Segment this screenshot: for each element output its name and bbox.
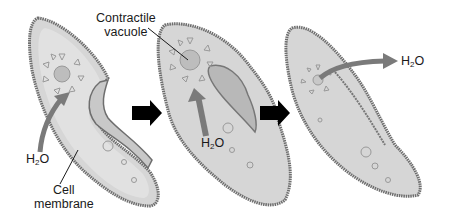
label-line-2: membrane	[34, 197, 94, 211]
label-line-2: vacuole	[96, 25, 156, 39]
cell-membrane-leader-line	[60, 150, 78, 184]
h-text: H	[201, 136, 210, 150]
cell-membrane-label: Cell membrane	[34, 183, 94, 211]
contractile-vacuole-label: Contractile vacuole	[96, 11, 156, 39]
h-text: H	[401, 54, 410, 68]
paramecium-cell-3	[286, 27, 420, 196]
label-line-1: Cell	[34, 183, 94, 197]
o-text: O	[214, 136, 224, 150]
o-text: O	[414, 54, 424, 68]
step-arrow-1	[132, 100, 162, 126]
water-label-2: H2O	[201, 136, 224, 154]
water-label-1: H2O	[26, 152, 49, 170]
o-text: O	[39, 152, 49, 166]
water-label-3: H2O	[401, 54, 424, 72]
label-line-1: Contractile	[96, 11, 156, 25]
h-text: H	[26, 152, 35, 166]
